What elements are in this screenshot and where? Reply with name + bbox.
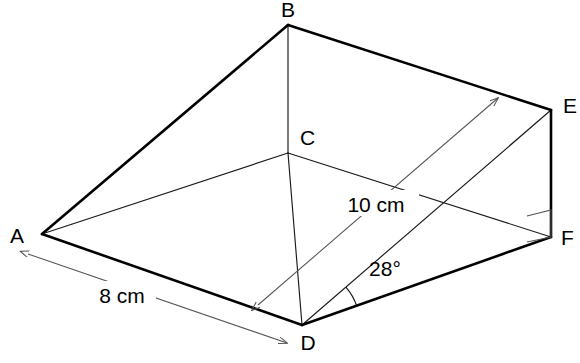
edge-cd	[288, 153, 302, 325]
vertex-label-d: D	[300, 331, 315, 354]
vertex-label-a: A	[10, 224, 24, 247]
geometry-diagram: 28° 8 cm10 cm ABCDEF	[0, 0, 580, 363]
dimension-label-len-10cm: 10 cm	[347, 193, 404, 216]
vertex-label-c: C	[300, 126, 315, 149]
edge-df	[302, 237, 551, 325]
prism-figure: 28° 8 cm10 cm ABCDEF	[0, 0, 580, 363]
edge-group-thick	[42, 25, 551, 325]
dimension-line-len-8cm	[28, 254, 287, 343]
edge-de	[302, 110, 551, 325]
dimension-label-len-8cm: 8 cm	[99, 284, 145, 307]
vertex-label-f: F	[561, 226, 574, 249]
edge-group-thin	[42, 25, 551, 325]
angle-group: 28°	[346, 257, 401, 306]
angle-label-angle-28: 28°	[369, 257, 401, 280]
edge-be	[288, 25, 551, 110]
edge-ab	[42, 25, 288, 234]
dimension-label-group: 8 cm10 cm	[88, 190, 419, 307]
vertex-label-b: B	[281, 0, 295, 21]
angle-arc-angle-28	[346, 287, 357, 306]
vertex-label-e: E	[563, 94, 577, 117]
edge-ac	[42, 153, 288, 234]
edge-ad	[42, 234, 302, 325]
